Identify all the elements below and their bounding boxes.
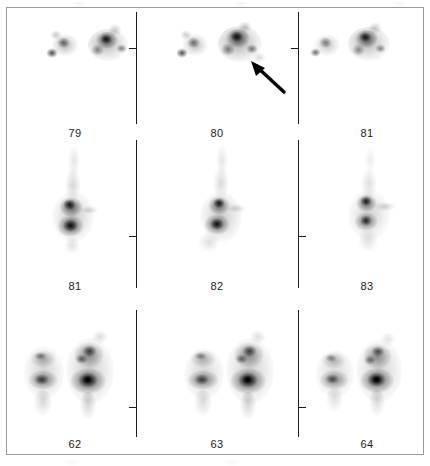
panel-row-oblique: 79 80 81 — [0, 8, 430, 143]
divider-tick — [129, 236, 137, 237]
row-divider-right — [298, 310, 299, 437]
scan-image-79 — [8, 8, 134, 143]
slice-label: 81 — [347, 127, 387, 139]
row-divider-right — [298, 140, 299, 288]
slice-label: 82 — [197, 280, 237, 292]
slice-label: 62 — [55, 438, 95, 450]
slice-label: 83 — [347, 280, 387, 292]
scan-image-62 — [8, 308, 134, 456]
divider-tick — [291, 48, 299, 49]
slice-label: 81 — [55, 280, 95, 292]
slice-label: 79 — [55, 127, 95, 139]
scan-image-82 — [140, 140, 296, 300]
lesion-pointer-arrow — [244, 58, 288, 96]
scintigraphy-panel-figure: 79 80 81 — [0, 0, 430, 466]
row-divider-left — [136, 140, 137, 288]
divider-tick — [129, 48, 137, 49]
scan-image-83 — [302, 140, 422, 300]
divider-tick — [129, 407, 137, 408]
row-divider-right — [298, 12, 299, 124]
scan-bleed-mark — [70, 0, 88, 7]
scan-bleed-mark — [390, 0, 408, 7]
scan-bleed-mark — [220, 458, 244, 466]
row-divider-left — [136, 12, 137, 124]
slice-label: 64 — [347, 438, 387, 450]
scan-image-63 — [140, 308, 296, 456]
scan-image-81-oblique — [302, 8, 422, 143]
scan-image-64 — [302, 308, 422, 456]
slice-label: 80 — [197, 127, 237, 139]
divider-tick — [298, 236, 306, 237]
divider-tick — [298, 407, 306, 408]
row-divider-left — [136, 310, 137, 437]
scan-bleed-mark — [232, 0, 250, 7]
scan-image-81-lateral — [8, 140, 134, 300]
panel-row-anterior: 62 63 64 — [0, 308, 430, 456]
panel-row-lateral: 81 82 83 — [0, 140, 430, 300]
slice-label: 63 — [197, 438, 237, 450]
scan-bleed-mark — [60, 458, 84, 466]
